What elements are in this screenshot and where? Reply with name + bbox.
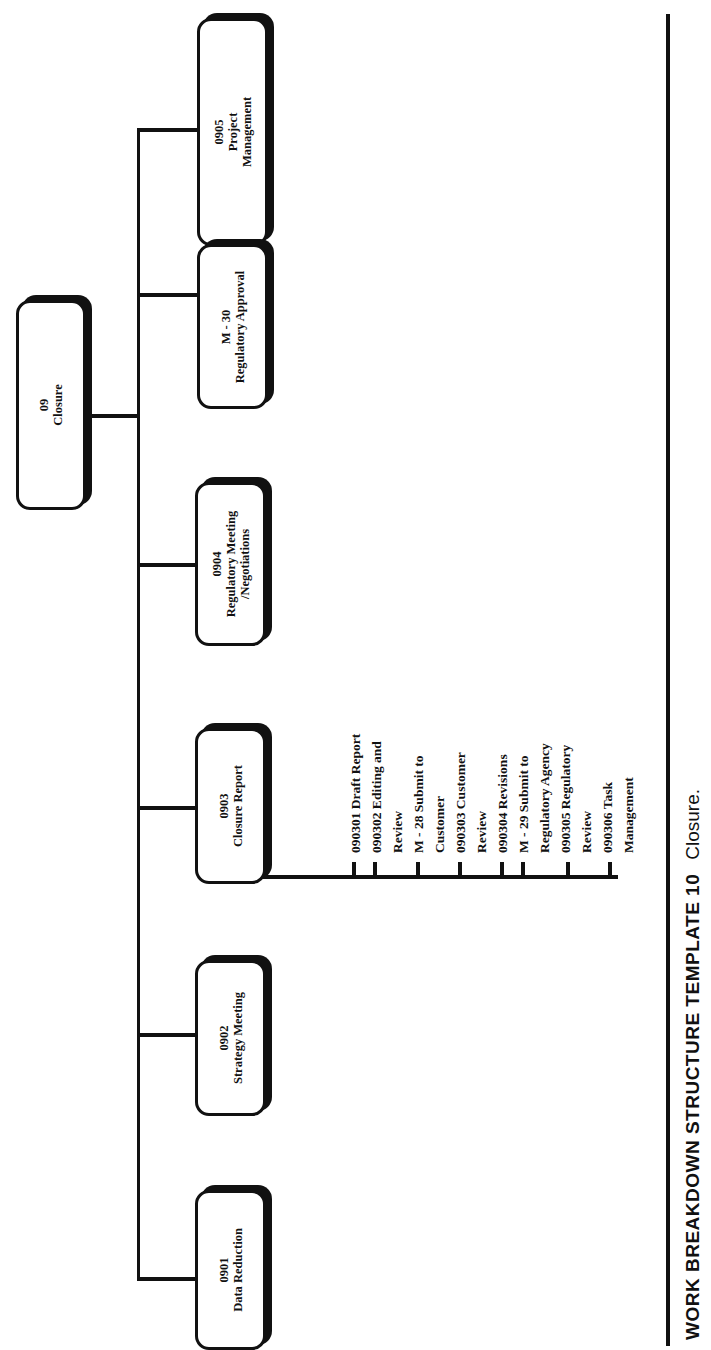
node-code: 0904: [210, 511, 224, 618]
node-title: Strategy Meeting: [231, 992, 245, 1084]
node-0902-strategy-meeting: 0902 Strategy Meeting: [195, 960, 266, 1116]
node-0903-closure-report: 0903 Closure Report: [195, 728, 266, 884]
subtask-tick: [500, 862, 504, 876]
subtask-m28: M - 28 Submit to: [412, 756, 426, 854]
caption-subtitle: Closure.: [682, 789, 703, 860]
node-code: M - 30: [219, 270, 233, 383]
subtask-tick: [566, 862, 570, 876]
subtask-tick: [608, 862, 612, 876]
node-0905-project-management: 0905 Project Management: [197, 18, 268, 246]
subtask-090306-cont: Management: [622, 777, 636, 853]
subtask-090302-cont: Review: [391, 811, 405, 853]
subtask-m28-cont: Customer: [433, 796, 447, 853]
subtask-tick: [373, 862, 377, 876]
node-code: 0902: [217, 992, 231, 1084]
subtask-090305-cont: Review: [580, 811, 594, 853]
subtask-tick: [416, 862, 420, 876]
node-title-2: Management: [240, 97, 254, 167]
subtask-m29-cont: Regulatory Agency: [538, 743, 552, 853]
subtask-090301: 090301 Draft Report: [349, 734, 363, 853]
connector-0905: [137, 128, 199, 132]
subtask-tick: [521, 862, 525, 876]
node-title-2: /Negotiations: [238, 511, 252, 618]
node-code: 0903: [217, 765, 231, 847]
node-title: Regulatory Meeting: [224, 511, 238, 618]
root-code: 09: [37, 384, 51, 425]
connector-m30: [137, 293, 199, 297]
node-0901-data-reduction: 0901 Data Reduction: [195, 1190, 266, 1350]
subtask-090302: 090302 Editing and: [370, 741, 384, 853]
subtask-090306: 090306 Task: [601, 782, 615, 853]
connector-0901: [137, 1277, 199, 1281]
subtask-tick: [458, 862, 462, 876]
caption-title: WORK BREAKDOWN STRUCTURE TEMPLATE 10: [682, 874, 703, 1340]
root-connector: [86, 414, 140, 418]
node-code: 0905: [212, 97, 226, 167]
subtask-090303-cont: Review: [475, 811, 489, 853]
spine-line: [137, 128, 140, 1280]
node-title: Project: [226, 97, 240, 167]
node-code: 0901: [217, 1228, 231, 1312]
root-title: Closure: [51, 384, 65, 425]
figure-caption: WORK BREAKDOWN STRUCTURE TEMPLATE 10Clos…: [682, 789, 704, 1340]
node-title: Closure Report: [231, 765, 245, 847]
connector-0903: [137, 806, 199, 810]
node-0904-regulatory-meeting: 0904 Regulatory Meeting /Negotiations: [195, 482, 266, 646]
connector-0902: [137, 1033, 199, 1037]
subtask-bus: [262, 875, 618, 879]
root-node-closure: 09 Closure: [16, 300, 86, 510]
caption-rule: [666, 14, 670, 1346]
subtask-m29: M - 29 Submit to: [517, 756, 531, 854]
node-title: Data Reduction: [231, 1228, 245, 1312]
node-m30-regulatory-approval: M - 30 Regulatory Approval: [197, 244, 268, 409]
subtask-090305: 090305 Regulatory: [559, 745, 573, 853]
subtask-090304: 090304 Revisions: [496, 754, 510, 853]
connector-0904: [137, 563, 199, 567]
subtask-tick: [352, 862, 356, 876]
subtask-090303: 090303 Customer: [454, 752, 468, 853]
node-title: Regulatory Approval: [233, 270, 247, 383]
root-node-label: 09 Closure: [37, 384, 65, 425]
